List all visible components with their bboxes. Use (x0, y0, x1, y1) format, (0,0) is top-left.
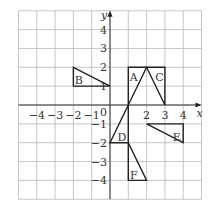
y-tick-label: 4 (100, 24, 107, 37)
y-tick-label: −3 (91, 156, 107, 169)
x-tick-label: 3 (161, 109, 168, 122)
triangle-label: D (117, 131, 126, 144)
y-tick-label: −4 (91, 174, 107, 187)
y-axis-label: y (100, 9, 108, 22)
x-tick-label: −2 (65, 109, 81, 122)
triangle-f: F (128, 143, 146, 182)
y-arrow-icon (108, 11, 113, 17)
triangle-label: B (75, 74, 83, 87)
y-tick-label: −2 (91, 137, 107, 150)
x-axis-label: x (197, 107, 204, 120)
coordinate-grid-diagram: xy0 −4−3−2−12344321−1−2−3−4 ABCDEF (0, 0, 215, 204)
triangle-label: A (129, 71, 139, 84)
y-tick-label: 3 (100, 42, 107, 55)
y-tick-label: 2 (100, 61, 107, 74)
triangle-label: F (130, 169, 138, 182)
x-tick-label: 2 (143, 109, 150, 122)
triangle-d: D (110, 105, 128, 144)
y-tick-label: −1 (91, 118, 107, 131)
x-tick-label: −4 (29, 109, 45, 122)
triangle-label: C (155, 71, 163, 84)
x-tick-label: −3 (47, 109, 63, 122)
triangle-label: E (173, 131, 181, 144)
axes: xy0 (19, 9, 204, 200)
x-tick-label: 4 (180, 109, 187, 122)
